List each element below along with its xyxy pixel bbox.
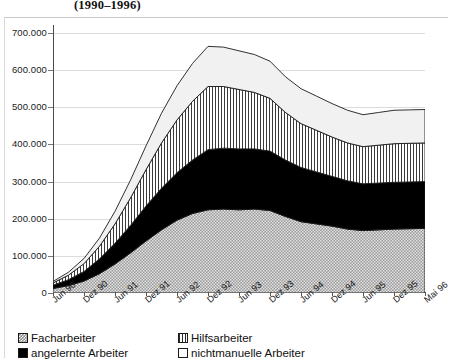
y-axis-tick-label: 500.000 (1, 101, 47, 112)
legend-item-angelernte-arbeiter[interactable]: angelernte Arbeiter (18, 347, 170, 359)
y-axis-tick-label: 0 (1, 287, 47, 298)
chart-title: (1990–1996) (74, 0, 141, 13)
stacked-area-chart (53, 33, 425, 293)
legend-label-nichtmanuelle-arbeiter: nichtmanuelle Arbeiter (191, 347, 305, 359)
y-axis-tick-label: 300.000 (1, 176, 47, 187)
legend-item-nichtmanuelle-arbeiter[interactable]: nichtmanuelle Arbeiter (178, 347, 438, 359)
legend-label-hilfsarbeiter: Hilfsarbeiter (191, 332, 252, 344)
y-axis-tick-label: 600.000 (1, 64, 47, 75)
vertical-hatch-swatch-icon (178, 333, 188, 343)
legend-label-facharbeiter: Facharbeiter (31, 332, 96, 344)
legend-item-hilfsarbeiter[interactable]: Hilfsarbeiter (178, 332, 438, 344)
chart-page: (1990–1996) 700.000600.000500.000400.000… (0, 0, 451, 361)
legend-item-facharbeiter[interactable]: Facharbeiter (18, 332, 170, 344)
legend-label-angelernte-arbeiter: angelernte Arbeiter (31, 347, 128, 359)
y-axis-tick-label: 200.000 (1, 213, 47, 224)
plot-area (53, 33, 425, 293)
dotted-gray-swatch-icon (18, 333, 28, 343)
y-axis-labels: 700.000600.000500.000400.000300.000200.0… (0, 0, 47, 361)
y-axis-tick-label: 400.000 (1, 138, 47, 149)
y-axis-tick-label: 100.000 (1, 250, 47, 261)
white-swatch-icon (178, 348, 188, 358)
y-axis-tick-label: 700.000 (1, 27, 47, 38)
solid-black-swatch-icon (18, 348, 28, 358)
chart-legend: Facharbeiter Hilfsarbeiter angelernte Ar… (18, 331, 438, 360)
